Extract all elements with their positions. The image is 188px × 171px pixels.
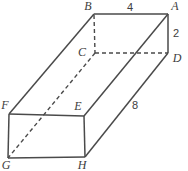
edge-EH — [84, 116, 85, 157]
edge-FG — [8, 114, 9, 158]
vertex-label-H: H — [77, 158, 88, 171]
measure-label-8: 8 — [132, 99, 138, 111]
measure-label-4: 4 — [127, 1, 133, 13]
vertex-label-F: F — [0, 98, 9, 112]
vertex-label-C: C — [78, 45, 87, 59]
measure-label-2: 2 — [173, 27, 179, 39]
vertex-label-A: A — [170, 0, 179, 13]
prism-figure: B A C D F E G H 4 2 8 — [0, 0, 188, 171]
vertex-label-G: G — [2, 158, 11, 171]
edge-BC-hidden — [94, 15, 95, 53]
edge-AE — [84, 14, 168, 116]
vertex-label-E: E — [73, 99, 82, 113]
vertex-label-B: B — [84, 0, 92, 13]
prism-diagram: B A C D F E G H 4 2 8 — [0, 0, 188, 171]
edge-DH — [85, 53, 168, 157]
edge-FE — [9, 114, 84, 116]
edge-CG-hidden — [8, 53, 95, 158]
vertex-label-D: D — [172, 51, 182, 65]
edge-GH — [8, 157, 85, 158]
